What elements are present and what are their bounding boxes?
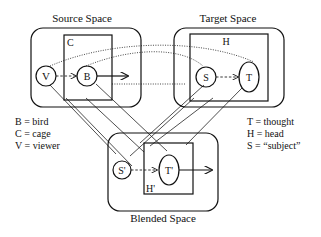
svg-text:B: B bbox=[84, 71, 91, 82]
svg-text:S': S' bbox=[118, 165, 126, 176]
blended-space-title: Blended Space bbox=[130, 212, 196, 224]
head-label: H bbox=[222, 36, 229, 47]
svg-text:T = thought: T = thought bbox=[247, 116, 294, 127]
svg-text:B = bird: B = bird bbox=[15, 116, 48, 127]
source-space-frame bbox=[31, 28, 141, 107]
projection-lines bbox=[50, 84, 242, 166]
svg-text:V = viewer: V = viewer bbox=[15, 140, 61, 151]
svg-text:V: V bbox=[42, 70, 50, 82]
source-space-title: Source Space bbox=[52, 12, 112, 24]
svg-text:S: S bbox=[203, 72, 209, 83]
cage-label: C bbox=[67, 37, 74, 48]
target-space-title: Target Space bbox=[200, 12, 257, 24]
legend-right: T = thought H = head S = “subject” bbox=[247, 116, 300, 151]
svg-text:H = head: H = head bbox=[247, 128, 284, 139]
svg-text:S = “subject”: S = “subject” bbox=[247, 140, 300, 151]
svg-text:T: T bbox=[246, 72, 252, 83]
blended-head-label: H' bbox=[146, 183, 155, 194]
blended-space: H' S' T' Blended Space bbox=[108, 133, 218, 224]
legend-left: B = bird C = cage V = viewer bbox=[15, 116, 61, 151]
svg-text:C = cage: C = cage bbox=[15, 128, 51, 139]
target-space: Target Space H S T bbox=[174, 12, 284, 107]
cross-space-mappings bbox=[50, 45, 254, 84]
svg-text:T': T' bbox=[165, 165, 173, 176]
source-space: Source Space C V B bbox=[31, 12, 141, 107]
conceptual-blending-diagram: Source Space C V B Target Space H S T H'… bbox=[0, 0, 321, 237]
